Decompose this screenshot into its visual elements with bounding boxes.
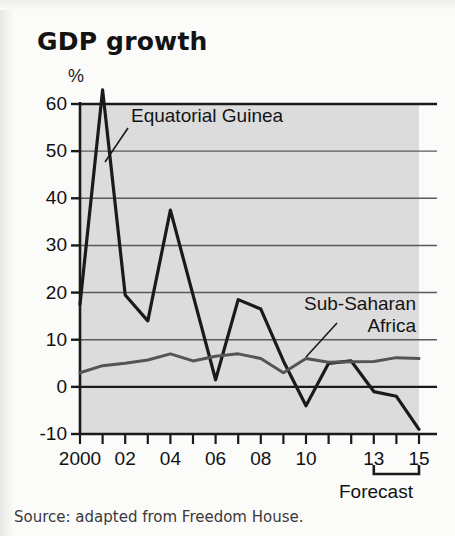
x-tick-label-2010: 10 [276,448,336,470]
y-tick-label--10: -10 [21,423,67,445]
y-tick-label-20: 20 [21,282,67,304]
y-tick-label-40: 40 [21,187,67,209]
y-tick-label-50: 50 [21,140,67,162]
y-tick-label-60: 60 [21,93,67,115]
x-tick-label-2015: 15 [389,448,449,470]
chart-page: GDP growth % Equatorial Guinea Sub-Sahar… [0,0,455,536]
series-label-ssa-line1: Sub-Saharan [304,293,416,314]
y-tick-label-30: 30 [21,234,67,256]
series-label-sub-saharan-africa: Sub-Saharan Africa [283,293,416,337]
source-note: Source: adapted from Freedom House. [14,508,304,526]
forecast-bracket-label: Forecast [339,481,413,503]
series-label-equatorial-guinea: Equatorial Guinea [131,105,283,127]
series-label-ssa-line2: Africa [367,315,416,336]
y-tick-label-10: 10 [21,329,67,351]
y-tick-label-0: 0 [21,376,67,398]
